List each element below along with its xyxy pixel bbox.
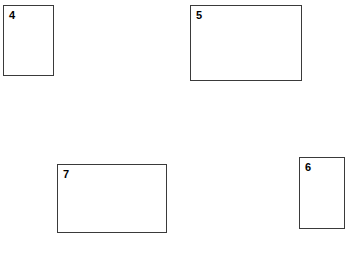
rectangle-7[interactable]: 7: [57, 164, 167, 233]
rectangle-6[interactable]: 6: [299, 157, 345, 229]
rectangle-7-label: 7: [63, 168, 69, 181]
rectangle-5-label: 5: [196, 9, 202, 22]
diagram-canvas: 4 5 7 6: [0, 0, 353, 255]
rectangle-4-label: 4: [9, 9, 15, 22]
rectangle-6-label: 6: [305, 161, 311, 174]
rectangle-4[interactable]: 4: [3, 5, 54, 76]
rectangle-5[interactable]: 5: [190, 5, 302, 81]
